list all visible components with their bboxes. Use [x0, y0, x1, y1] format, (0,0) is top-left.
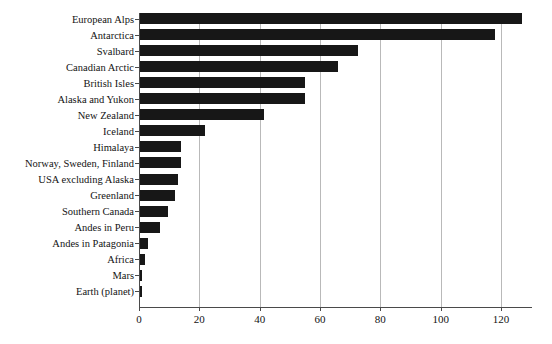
x-axis-tick-20 — [199, 307, 200, 311]
bar[interactable] — [139, 77, 305, 88]
bar[interactable] — [139, 93, 305, 104]
x-axis-tick-label: 80 — [360, 313, 400, 326]
category-label: New Zealand — [0, 110, 134, 121]
bar[interactable] — [139, 190, 175, 201]
bar-fill — [139, 222, 160, 233]
bar-fill — [139, 206, 168, 217]
bar-fill — [139, 29, 495, 40]
x-axis-tick-label: 60 — [300, 313, 340, 326]
bar-chart: European AlpsAntarcticaSvalbardCanadian … — [0, 0, 552, 344]
bar[interactable] — [139, 29, 495, 40]
bar[interactable] — [139, 109, 264, 120]
x-axis-tick-label: 120 — [481, 313, 521, 326]
bar[interactable] — [139, 238, 148, 249]
category-label: Canadian Arctic — [0, 62, 134, 73]
category-label: Andes in Patagonia — [0, 238, 134, 249]
bar-fill — [139, 13, 522, 24]
bar[interactable] — [139, 45, 358, 56]
category-label: Andes in Peru — [0, 222, 134, 233]
x-axis-tick-40 — [260, 307, 261, 311]
x-axis-tick-0 — [139, 307, 140, 311]
category-label: Earth (planet) — [0, 286, 134, 297]
bar-fill — [139, 141, 181, 152]
y-axis-line — [139, 13, 140, 307]
bar[interactable] — [139, 222, 160, 233]
x-axis-tick-label: 0 — [119, 313, 159, 326]
x-axis-tick-80 — [380, 307, 381, 311]
category-label: Mars — [0, 270, 134, 281]
bar[interactable] — [139, 125, 205, 136]
bar[interactable] — [139, 13, 522, 24]
x-axis-tick-60 — [320, 307, 321, 311]
category-label: USA excluding Alaska — [0, 174, 134, 185]
category-label: Southern Canada — [0, 206, 134, 217]
category-label: Norway, Sweden, Finland — [0, 158, 134, 169]
x-axis-tick-100 — [441, 307, 442, 311]
bar[interactable] — [139, 141, 181, 152]
category-label: Svalbard — [0, 46, 134, 57]
category-label: British Isles — [0, 78, 134, 89]
category-label: Africa — [0, 254, 134, 265]
x-axis-tick-120 — [501, 307, 502, 311]
category-label: Alaska and Yukon — [0, 94, 134, 105]
category-label: Iceland — [0, 126, 134, 137]
x-axis-tick-label: 20 — [179, 313, 219, 326]
bar[interactable] — [139, 61, 338, 72]
x-axis-line — [139, 307, 532, 308]
bar-fill — [139, 45, 358, 56]
bar-fill — [139, 93, 305, 104]
bar-fill — [139, 190, 175, 201]
category-label: Antarctica — [0, 30, 134, 41]
bar-fill — [139, 157, 181, 168]
bar-fill — [139, 174, 178, 185]
bar-fill — [139, 109, 264, 120]
bar-fill — [139, 77, 305, 88]
bar[interactable] — [139, 206, 168, 217]
bar-fill — [139, 238, 148, 249]
category-label: European Alps — [0, 14, 134, 25]
bars-layer — [139, 13, 532, 307]
bar[interactable] — [139, 157, 181, 168]
x-axis-tick-label: 100 — [421, 313, 461, 326]
category-label: Himalaya — [0, 142, 134, 153]
bar[interactable] — [139, 174, 178, 185]
category-label: Greenland — [0, 190, 134, 201]
bar-fill — [139, 125, 205, 136]
bar-fill — [139, 61, 338, 72]
x-axis-tick-label: 40 — [240, 313, 280, 326]
